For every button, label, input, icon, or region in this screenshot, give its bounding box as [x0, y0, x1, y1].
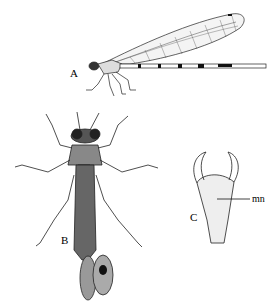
- panel-c-labium: [194, 152, 238, 243]
- damselfly-figure: A B mn C: [0, 0, 279, 306]
- panel-b-label: B: [61, 234, 68, 246]
- panel-a-label: A: [70, 67, 78, 79]
- panel-b-nymph: [15, 112, 158, 300]
- panel-c-label: C: [190, 211, 197, 223]
- panel-a-adult-damselfly: [86, 14, 266, 96]
- mn-annotation: mn: [252, 193, 265, 204]
